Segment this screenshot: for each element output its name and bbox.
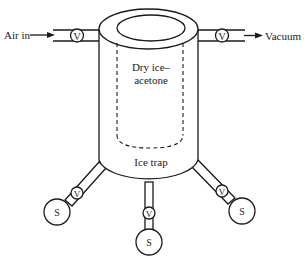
svg-text:S: S [239,206,245,217]
left-flask-branch: S V [44,162,106,225]
vacuum-label: Vacuum [265,30,301,42]
svg-text:V: V [218,31,226,42]
svg-text:V: V [74,189,81,199]
inlet-valve: V [71,29,84,42]
right-flask: S [229,198,255,224]
right-flask-branch: S V [191,160,255,224]
center-flask-valve: V [143,207,155,219]
left-flask: S [44,199,70,225]
svg-text:S: S [54,207,60,218]
center-flask-branch: S V [136,182,162,255]
ice-trap-diagram: Air in V Vacuum V S V S [0,0,307,264]
air-in-label: Air in [4,29,30,41]
vacuum-arrow [244,33,263,39]
svg-text:V: V [146,209,153,219]
air-in-arrow [30,32,55,38]
coolant-label-line1: Dry ice– [132,61,171,73]
outlet-valve: V [216,29,229,42]
svg-text:V: V [73,31,81,42]
center-flask: S [136,229,162,255]
ice-trap-label: Ice trap [134,156,168,168]
ice-trap-vessel [99,9,198,179]
right-flask-valve: V [216,185,228,197]
left-flask-valve: V [71,187,83,199]
coolant-label-line2: acetone [134,74,168,86]
svg-text:S: S [146,237,152,248]
svg-text:V: V [219,187,226,197]
